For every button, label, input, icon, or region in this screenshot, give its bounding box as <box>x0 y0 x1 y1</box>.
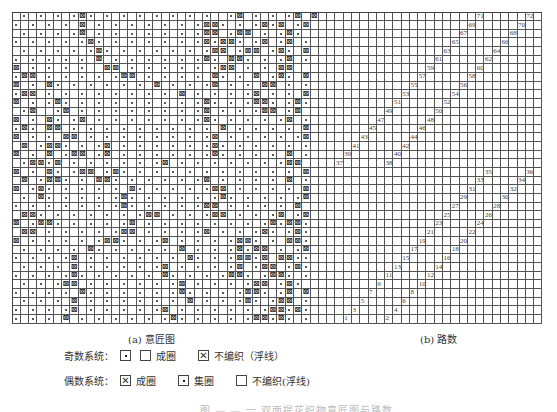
x-mark-icon: ⊠ <box>120 228 128 236</box>
dot-icon <box>206 154 208 156</box>
x-mark-icon: ⊠ <box>260 21 268 29</box>
dot-icon <box>222 154 224 156</box>
dot-icon <box>15 59 17 61</box>
dot-icon <box>32 292 34 294</box>
track-number: 25 <box>444 212 451 219</box>
dot-icon <box>123 266 125 268</box>
track-number: 36 <box>526 169 533 176</box>
x-mark-icon: ⊠ <box>294 306 302 314</box>
x-mark-icon: ⊠ <box>20 72 28 80</box>
dot-symbol-icon <box>120 350 131 361</box>
dot-icon <box>222 76 224 78</box>
dot-icon <box>239 128 241 130</box>
dot-symbol-icon <box>178 375 189 386</box>
dot-icon <box>15 275 17 277</box>
dot-icon <box>272 240 274 242</box>
x-mark-icon: ⊠ <box>45 219 53 227</box>
track-number: 12 <box>427 272 434 279</box>
dot-icon <box>214 309 216 311</box>
dot-icon <box>239 41 241 43</box>
x-mark-icon: ⊠ <box>20 142 28 150</box>
x-mark-icon: ⊠ <box>62 133 70 141</box>
dot-icon <box>156 240 158 242</box>
x-mark-icon: ⊠ <box>29 90 37 98</box>
dot-icon <box>264 59 266 61</box>
legend-odd-label-knit: 成圈 <box>156 348 176 363</box>
x-mark-icon: ⊠ <box>202 55 210 63</box>
dot-icon <box>239 24 241 26</box>
x-mark-icon: ⊠ <box>37 219 45 227</box>
legend-even-title: 偶数系统： <box>64 373 114 388</box>
x-mark-icon: ⊠ <box>302 245 310 253</box>
x-mark-icon: ⊠ <box>236 254 244 262</box>
track-number: 57 <box>419 73 426 80</box>
x-mark-icon: ⊠ <box>103 150 111 158</box>
dot-icon <box>148 24 150 26</box>
dot-icon <box>156 128 158 130</box>
dot-icon <box>305 223 307 225</box>
x-mark-icon: ⊠ <box>78 288 86 296</box>
track-number: 44 <box>410 134 417 141</box>
dot-icon <box>32 59 34 61</box>
dot-icon <box>297 249 299 251</box>
track-number: 32 <box>510 186 517 193</box>
dot-icon <box>214 119 216 121</box>
x-mark-icon: ⊠ <box>29 72 37 80</box>
x-mark-icon: ⊠ <box>53 124 61 132</box>
track-number: 11 <box>386 272 393 279</box>
dot-icon <box>32 309 34 311</box>
dot-icon <box>131 59 133 61</box>
track-number: 2 <box>386 315 390 322</box>
dot-icon <box>222 292 224 294</box>
x-mark-icon: ⊠ <box>277 271 285 279</box>
dot-icon <box>65 102 67 104</box>
x-mark-icon: ⊠ <box>62 280 70 288</box>
x-mark-icon: ⊠ <box>260 263 268 271</box>
x-mark-icon: ⊠ <box>227 55 235 63</box>
dot-icon <box>148 59 150 61</box>
x-mark-icon: ⊠ <box>29 159 37 167</box>
dot-icon <box>305 59 307 61</box>
x-mark-icon: ⊠ <box>302 168 310 176</box>
dot-icon <box>148 318 150 320</box>
dot-icon <box>272 93 274 95</box>
track-number: 59 <box>427 65 434 72</box>
track-number: 72 <box>526 13 533 20</box>
dot-icon <box>272 318 274 320</box>
dot-icon <box>305 275 307 277</box>
track-number: 13 <box>394 264 401 271</box>
dot-icon <box>148 249 150 251</box>
dot-icon <box>32 223 34 225</box>
dot-icon <box>98 240 100 242</box>
x-mark-icon: ⊠ <box>120 72 128 80</box>
dot-icon <box>206 145 208 147</box>
x-mark-icon: ⊠ <box>285 237 293 245</box>
dot-icon <box>115 188 117 190</box>
track-number: 18 <box>452 246 459 253</box>
dot-icon <box>214 240 216 242</box>
dot-icon <box>123 162 125 164</box>
dot-icon <box>73 33 75 35</box>
track-number: 67 <box>460 30 467 37</box>
dot-icon <box>214 266 216 268</box>
dot-icon <box>181 162 183 164</box>
track-number: 3 <box>352 307 356 314</box>
track-number: 48 <box>427 117 434 124</box>
x-mark-icon: ⊠ <box>219 47 227 55</box>
dot-icon <box>181 76 183 78</box>
dot-icon <box>57 50 59 52</box>
dot-icon <box>115 41 117 43</box>
dot-icon <box>40 50 42 52</box>
x-mark-icon: ⊠ <box>45 176 53 184</box>
dot-icon <box>57 223 59 225</box>
track-number: 55 <box>410 82 417 89</box>
x-mark-icon: ⊠ <box>285 176 293 184</box>
dot-icon <box>164 197 166 199</box>
dot-icon <box>280 249 282 251</box>
x-mark-icon: ⊠ <box>70 297 78 305</box>
dot-icon <box>305 309 307 311</box>
x-mark-icon: ⊠ <box>219 193 227 201</box>
dot-icon <box>305 119 307 121</box>
track-number: 70 <box>518 22 525 29</box>
track-number: 66 <box>502 39 509 46</box>
